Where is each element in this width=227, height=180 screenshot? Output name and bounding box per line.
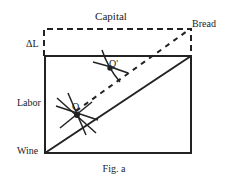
capital-label: Capital bbox=[95, 10, 127, 22]
extended-box-dashed bbox=[44, 29, 191, 56]
wine-label: Wine bbox=[17, 145, 39, 156]
bread-label: Bread bbox=[192, 18, 216, 29]
isoquants-lower bbox=[56, 93, 98, 135]
labor-label: Labor bbox=[17, 97, 42, 108]
delta-labor-label: ΔL bbox=[26, 38, 39, 49]
shifted-diagonal-dashed bbox=[76, 29, 190, 111]
figure-caption: Fig. a bbox=[103, 163, 126, 174]
contract-diagonal bbox=[45, 56, 191, 153]
q-label: Q bbox=[72, 101, 80, 112]
edgeworth-box-diagram: Capital Bread ΔL Labor Wine Q' Q Fig. a bbox=[0, 0, 227, 180]
q-prime-label: Q' bbox=[109, 58, 118, 69]
